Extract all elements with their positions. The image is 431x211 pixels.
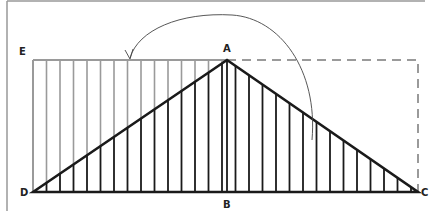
frame <box>7 1 425 211</box>
label-B: B <box>223 199 231 210</box>
arrowhead-icon <box>125 49 133 59</box>
label-C: C <box>421 187 428 198</box>
label-A: A <box>223 43 231 54</box>
triangle-rectangle-diagram: E A D B C <box>0 0 431 211</box>
label-D: D <box>20 187 28 198</box>
triangle-ADC <box>33 60 418 192</box>
label-E: E <box>19 46 26 57</box>
